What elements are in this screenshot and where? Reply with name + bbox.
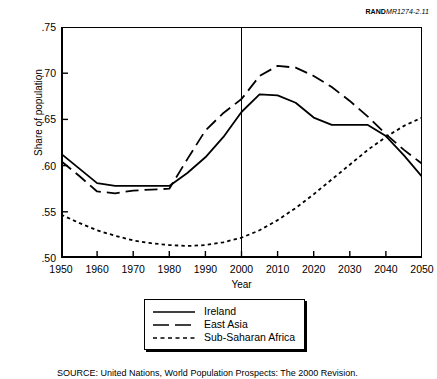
legend-line-dotted-icon <box>152 333 196 343</box>
x-tick-label: 2010 <box>266 264 289 275</box>
x-tick-label: 1980 <box>158 264 181 275</box>
x-tick-label: 1960 <box>85 264 108 275</box>
y-tick-label: .55 <box>41 207 56 218</box>
chart-series-canvas <box>61 27 422 258</box>
legend-line-solid-icon <box>152 307 196 317</box>
legend-item-sub-saharan-africa: Sub-Saharan Africa <box>152 331 295 344</box>
legend-label-ireland: Ireland <box>204 306 236 317</box>
y-tick-label: .70 <box>41 68 56 79</box>
x-tick-label: 1970 <box>122 264 145 275</box>
x-tick-label: 2050 <box>410 264 433 275</box>
legend-item-east-asia: East Asia <box>152 318 295 331</box>
x-tick-label: 2030 <box>338 264 361 275</box>
figure-id-org: RAND <box>365 8 386 15</box>
x-tick-label: 1950 <box>49 264 72 275</box>
x-tick-label: 2020 <box>302 264 325 275</box>
x-tick-label: 2000 <box>230 264 253 275</box>
legend-label-east-asia: East Asia <box>204 319 248 330</box>
chart-plot-area: Share of population Year .50.55.60.65.70… <box>61 27 422 258</box>
x-axis-title: Year <box>61 279 422 290</box>
legend-item-ireland: Ireland <box>152 305 295 318</box>
figure-id-number: MR1274-2.11 <box>386 8 429 15</box>
legend-line-dashed-icon <box>152 320 196 330</box>
figure-id: RANDMR1274-2.11 <box>365 8 429 15</box>
x-tick-label: 2040 <box>374 264 397 275</box>
chart-legend: Ireland East Asia Sub-Saharan Africa <box>144 299 305 350</box>
y-tick-label: .50 <box>41 253 56 264</box>
y-tick-label: .60 <box>41 160 56 171</box>
y-tick-label: .65 <box>41 114 56 125</box>
y-tick-label: .75 <box>41 22 56 33</box>
legend-label-sub-saharan-africa: Sub-Saharan Africa <box>204 332 295 343</box>
x-tick-label: 1990 <box>194 264 217 275</box>
source-note: SOURCE: United Nations, World Population… <box>57 368 427 379</box>
